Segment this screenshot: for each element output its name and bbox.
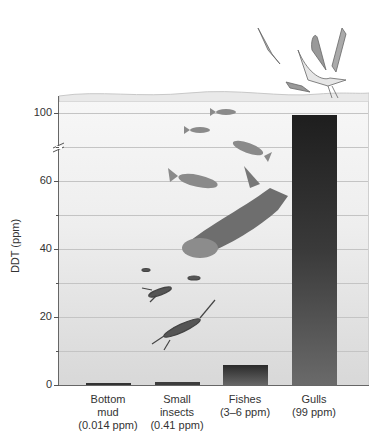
x-label-bottom-mud: Bottom mud (0.014 ppm) (68, 393, 148, 432)
y-tick-label: 0 (2, 378, 52, 390)
label-line: Gulls (274, 393, 354, 406)
insect-larva-icon (142, 269, 215, 351)
label-line: Fishes (205, 393, 285, 406)
organisms-illustration (120, 100, 300, 360)
y-tick-minor (56, 147, 59, 148)
y-tick (54, 249, 59, 250)
small-fish-icon (168, 108, 272, 191)
label-line: (3–6 ppm) (205, 406, 285, 419)
y-tick-minor (56, 283, 59, 284)
gulls-illustration (250, 20, 350, 100)
y-axis-title: DDT (ppm) (9, 219, 21, 273)
bar-small-insects (155, 382, 200, 385)
x-label-gulls: Gulls (99 ppm) (274, 393, 354, 419)
y-tick-minor (56, 215, 59, 216)
bar-fishes (223, 365, 268, 385)
gull-icon (258, 28, 346, 98)
y-tick (54, 113, 59, 114)
y-tick-label: 100 (2, 106, 52, 118)
y-tick-label: 60 (2, 174, 52, 186)
label-line: (0.014 ppm) (68, 419, 148, 432)
y-tick (54, 181, 59, 182)
y-tick-minor (56, 351, 59, 352)
label-line: Bottom (68, 393, 148, 406)
x-label-fishes: Fishes (3–6 ppm) (205, 393, 285, 419)
y-tick-label: 20 (2, 310, 52, 322)
label-line: (99 ppm) (274, 406, 354, 419)
y-tick (54, 317, 59, 318)
bar-bottom-mud (86, 383, 131, 385)
y-tick (54, 385, 59, 386)
axis-break-icon (52, 140, 66, 154)
label-line: mud (68, 406, 148, 419)
x-axis (58, 385, 369, 386)
label-line: (0.41 ppm) (137, 419, 217, 432)
